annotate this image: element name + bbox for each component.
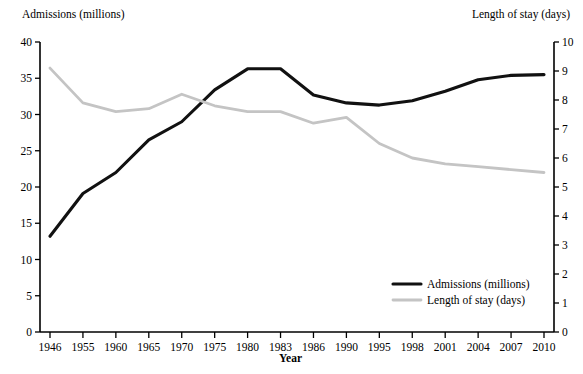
chart-container: Admissions (millions) Length of stay (da…: [0, 0, 583, 374]
left-axis-tick-label: 40: [21, 36, 33, 48]
right-axis-tick-label: 6: [562, 152, 568, 164]
left-axis: 0510152025303540: [21, 36, 41, 338]
x-axis: 1946195519601965197019751980198319861990…: [39, 332, 556, 353]
series-lines: [50, 68, 544, 236]
right-axis-tick-label: 0: [562, 326, 568, 338]
right-axis-tick-label: 9: [562, 65, 568, 77]
right-axis-tick-label: 2: [562, 268, 568, 280]
left-axis-tick-label: 30: [21, 109, 33, 121]
right-axis-tick-label: 10: [562, 36, 574, 48]
right-axis-tick-label: 5: [562, 181, 568, 193]
right-axis-tick-label: 3: [562, 239, 568, 251]
left-axis-tick-label: 15: [21, 217, 33, 229]
left-axis-tick-label: 0: [26, 326, 32, 338]
legend-label: Admissions (millions): [427, 278, 530, 291]
legend-label: Length of stay (days): [427, 294, 525, 307]
left-axis-tick-label: 5: [26, 290, 32, 302]
plot-area: 0510152025303540 012345678910 1946195519…: [0, 0, 583, 374]
series-line-admissions: [50, 69, 544, 236]
x-axis-title-label: Year: [279, 352, 302, 364]
right-axis-tick-label: 7: [562, 123, 568, 135]
left-axis-tick-label: 35: [21, 72, 33, 84]
right-axis-tick-label: 4: [562, 210, 568, 222]
left-axis-tick-label: 10: [21, 254, 33, 266]
left-axis-tick-label: 20: [21, 181, 33, 193]
x-axis-title: Year: [0, 352, 583, 364]
right-axis-tick-label: 8: [562, 94, 568, 106]
right-axis-tick-label: 1: [562, 297, 568, 309]
right-axis: 012345678910: [554, 36, 574, 338]
chart-legend: Admissions (millions)Length of stay (day…: [393, 278, 530, 307]
left-axis-tick-label: 25: [21, 145, 33, 157]
